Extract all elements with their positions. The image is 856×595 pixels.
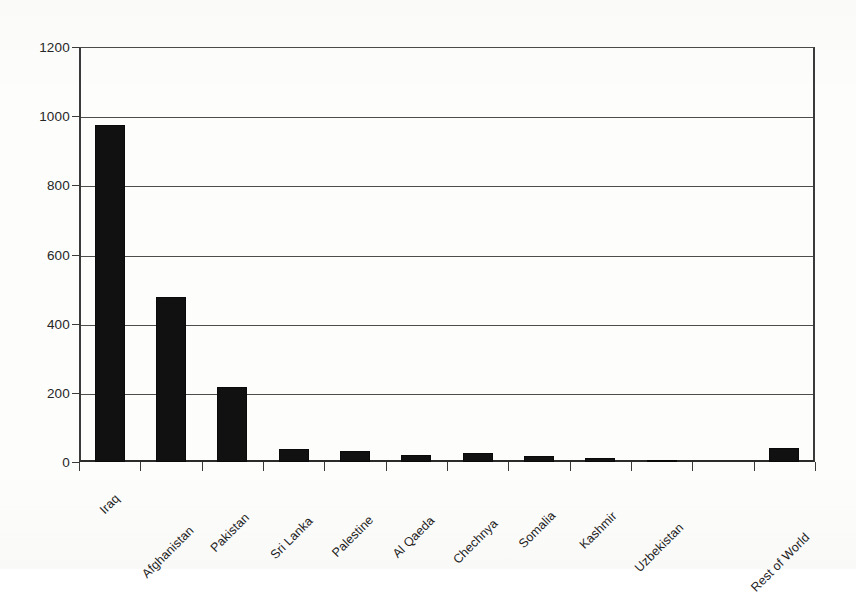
bar xyxy=(769,448,799,462)
y-axis-tick-label: 1000 xyxy=(10,109,70,124)
x-axis-tick-mark xyxy=(140,462,141,471)
x-axis-tick-mark xyxy=(631,462,632,471)
y-axis-tick-label: 1200 xyxy=(10,40,70,55)
x-axis-tick-mark xyxy=(754,462,755,471)
x-axis-tick-mark xyxy=(202,462,203,471)
x-axis-tick-label: Pakistan xyxy=(208,510,252,554)
bar xyxy=(463,453,493,462)
bars-layer xyxy=(79,47,815,462)
x-axis-tick-mark xyxy=(324,462,325,471)
x-axis-tick-label: Iraq xyxy=(97,492,122,517)
y-axis-tick-label: 200 xyxy=(10,385,70,400)
bar xyxy=(95,125,125,462)
bar xyxy=(279,449,309,462)
y-axis-tick-label: 400 xyxy=(10,316,70,331)
x-axis-tick-label: Kashmir xyxy=(577,509,620,552)
x-axis-tick-mark xyxy=(263,462,264,471)
x-axis-tick-label: Sri Lanka xyxy=(267,514,315,562)
x-axis-tick-mark xyxy=(386,462,387,471)
bar xyxy=(217,387,247,462)
x-axis-tick-label: Afghanistan xyxy=(139,523,196,580)
x-axis-tick-mark xyxy=(447,462,448,471)
x-axis-tick-mark xyxy=(570,462,571,471)
x-axis-tick-mark xyxy=(815,462,816,471)
bar xyxy=(340,451,370,462)
x-axis-tick-label: Chechnya xyxy=(450,516,500,566)
y-axis-tick-label: 600 xyxy=(10,247,70,262)
x-axis-tick-label: Somalia xyxy=(516,508,558,550)
y-axis-tick-label: 800 xyxy=(10,178,70,193)
x-axis-tick-mark xyxy=(692,462,693,471)
x-axis-tick-mark xyxy=(79,462,80,471)
x-axis-tick-label: Rest of World xyxy=(749,530,813,594)
bar xyxy=(647,460,677,462)
bar xyxy=(585,458,615,462)
y-axis-tick-label: 0 xyxy=(10,455,70,470)
bar xyxy=(524,456,554,462)
bar xyxy=(401,455,431,462)
x-axis-tick-label: Al Qaeda xyxy=(390,513,437,560)
bar xyxy=(156,297,186,462)
x-axis-tick-label: Uzbekistan xyxy=(632,520,686,574)
x-axis-tick-mark xyxy=(508,462,509,471)
x-axis-tick-label: Palestine xyxy=(329,513,376,560)
